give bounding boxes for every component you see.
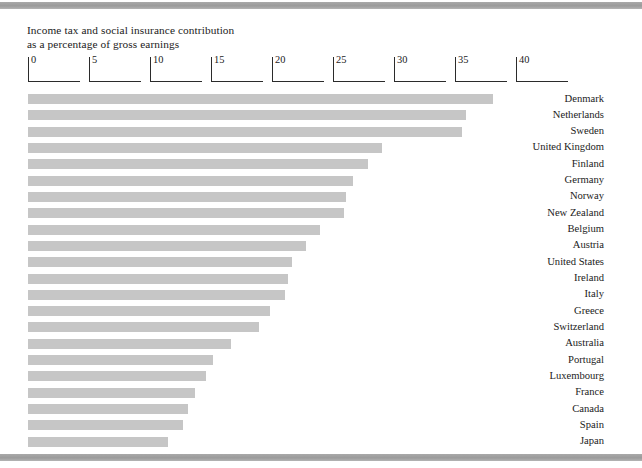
bar-row: Switzerland	[0, 320, 642, 336]
bar-row: United Kingdom	[0, 141, 642, 157]
x-axis: 0510152025303540	[0, 56, 642, 86]
x-axis-tick-label: 25	[336, 54, 346, 66]
tick-vertical-rule	[28, 57, 29, 82]
bar	[28, 339, 231, 349]
bar-category-label: Sweden	[480, 124, 604, 137]
tick-horizontal-rule	[455, 81, 507, 82]
x-axis-tick: 30	[394, 56, 454, 84]
bar-category-label: United States	[480, 255, 604, 268]
bar	[28, 371, 206, 381]
bar-row: Canada	[0, 402, 642, 418]
bar-row: Japan	[0, 435, 642, 451]
bar	[28, 420, 183, 430]
bar	[28, 208, 344, 218]
bar-row: Belgium	[0, 223, 642, 239]
chart-page: Income tax and social insurance contribu…	[0, 0, 642, 468]
bar-category-label: Netherlands	[480, 108, 604, 121]
bottom-decorative-band	[0, 454, 642, 461]
tick-vertical-rule	[455, 57, 456, 82]
tick-vertical-rule	[150, 57, 151, 82]
tick-horizontal-rule	[333, 81, 385, 82]
x-axis-tick-label: 20	[275, 54, 285, 66]
bar	[28, 110, 466, 120]
tick-vertical-rule	[394, 57, 395, 82]
x-axis-tick-label: 40	[519, 54, 529, 66]
bar-row: Austria	[0, 239, 642, 255]
bar-category-label: France	[480, 385, 604, 398]
top-decorative-band	[0, 2, 642, 9]
bar-row: Australia	[0, 337, 642, 353]
tick-vertical-rule	[333, 57, 334, 82]
bar	[28, 257, 292, 267]
bar-row: Sweden	[0, 125, 642, 141]
bar-category-label: Denmark	[480, 92, 604, 105]
bar-row: Ireland	[0, 272, 642, 288]
bar-row: Denmark	[0, 92, 642, 108]
x-axis-tick-label: 5	[92, 54, 97, 66]
tick-horizontal-rule	[272, 81, 324, 82]
bar-category-label: Austria	[480, 238, 604, 251]
bar	[28, 176, 353, 186]
x-axis-tick-label: 30	[397, 54, 407, 66]
tick-horizontal-rule	[211, 81, 263, 82]
bar	[28, 274, 288, 284]
bar-row: Spain	[0, 418, 642, 434]
bar	[28, 437, 168, 447]
bar-category-label: New Zealand	[480, 206, 604, 219]
bar	[28, 143, 382, 153]
x-axis-tick: 10	[150, 56, 210, 84]
bar-row: Italy	[0, 288, 642, 304]
tick-horizontal-rule	[89, 81, 141, 82]
x-axis-tick-label: 10	[153, 54, 163, 66]
bar-row: Finland	[0, 157, 642, 173]
bar-row: Norway	[0, 190, 642, 206]
bar-category-label: Portugal	[480, 353, 604, 366]
bar-category-label: Germany	[480, 173, 604, 186]
bar	[28, 225, 320, 235]
x-axis-tick: 15	[211, 56, 271, 84]
x-axis-tick: 20	[272, 56, 332, 84]
bar	[28, 94, 493, 104]
tick-vertical-rule	[272, 57, 273, 82]
bar-row: Luxembourg	[0, 369, 642, 385]
x-axis-tick: 25	[333, 56, 393, 84]
bar	[28, 388, 195, 398]
bar-plot-area: DenmarkNetherlandsSwedenUnited KingdomFi…	[0, 92, 642, 444]
bar-category-label: Spain	[480, 418, 604, 431]
bar	[28, 127, 462, 137]
bar-row: New Zealand	[0, 206, 642, 222]
bar-row: Greece	[0, 304, 642, 320]
bar-category-label: United Kingdom	[480, 140, 604, 153]
bar	[28, 322, 259, 332]
bar-category-label: Luxembourg	[480, 369, 604, 382]
bar-category-label: Italy	[480, 287, 604, 300]
bar-row: United States	[0, 255, 642, 271]
bar-row: France	[0, 386, 642, 402]
x-axis-tick-label: 0	[31, 54, 36, 66]
bar	[28, 241, 306, 251]
bar-row: Netherlands	[0, 108, 642, 124]
bar	[28, 306, 270, 316]
bar-category-label: Finland	[480, 157, 604, 170]
tick-vertical-rule	[516, 57, 517, 82]
bar-row: Portugal	[0, 353, 642, 369]
tick-horizontal-rule	[150, 81, 202, 82]
tick-horizontal-rule	[516, 81, 568, 82]
bar-category-label: Switzerland	[480, 320, 604, 333]
bar-row: Germany	[0, 174, 642, 190]
x-axis-tick-label: 15	[214, 54, 224, 66]
x-axis-tick: 0	[28, 56, 88, 84]
bar-category-label: Canada	[480, 402, 604, 415]
x-axis-tick: 35	[455, 56, 515, 84]
x-axis-tick: 5	[89, 56, 149, 84]
tick-vertical-rule	[211, 57, 212, 82]
tick-horizontal-rule	[28, 81, 80, 82]
bar	[28, 192, 346, 202]
bar-category-label: Norway	[480, 189, 604, 202]
bar	[28, 290, 285, 300]
bar	[28, 404, 188, 414]
bar-category-label: Japan	[480, 434, 604, 447]
bar-category-label: Australia	[480, 336, 604, 349]
tick-vertical-rule	[89, 57, 90, 82]
chart-title: Income tax and social insurance contribu…	[27, 24, 357, 51]
